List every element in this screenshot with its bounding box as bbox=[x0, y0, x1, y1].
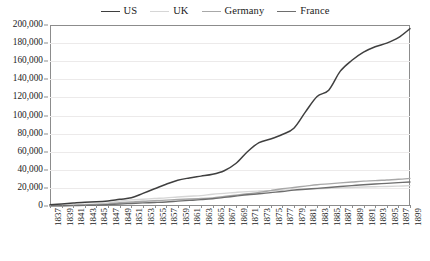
x-axis-tick bbox=[96, 205, 97, 208]
x-axis-tick bbox=[305, 205, 306, 208]
y-axis-tick bbox=[44, 206, 48, 207]
x-axis-label: 1837 bbox=[54, 208, 63, 226]
legend-swatch-france bbox=[277, 11, 296, 12]
x-axis-label: 1861 bbox=[193, 208, 202, 226]
y-axis-tick bbox=[44, 79, 48, 80]
series-line-france bbox=[50, 182, 410, 206]
x-axis-tick bbox=[73, 205, 74, 208]
x-axis-tick bbox=[340, 205, 341, 208]
x-axis-label: 1853 bbox=[147, 208, 156, 226]
x-axis-label: 1849 bbox=[124, 208, 133, 226]
y-axis: 020,00040,00060,00080,000100,000120,0001… bbox=[0, 25, 48, 206]
x-axis-tick bbox=[329, 205, 330, 208]
y-axis-tick bbox=[44, 151, 48, 152]
x-axis-label: 1887 bbox=[344, 208, 353, 226]
x-axis-label: 1859 bbox=[182, 208, 191, 226]
x-axis-label: 1839 bbox=[66, 208, 75, 226]
x-axis-label: 1851 bbox=[135, 208, 144, 226]
legend-item-uk[interactable]: UK bbox=[150, 6, 188, 17]
chart-legend: USUKGermanyFrance bbox=[0, 6, 430, 17]
legend-swatch-germany bbox=[202, 11, 221, 12]
x-axis-label: 1877 bbox=[286, 208, 295, 226]
x-axis-tick bbox=[178, 205, 179, 208]
x-axis-label: 1881 bbox=[309, 208, 318, 226]
x-axis-tick bbox=[155, 205, 156, 208]
legend-item-france[interactable]: France bbox=[277, 6, 329, 17]
y-axis-label: 20,000 bbox=[17, 183, 43, 192]
x-axis-tick bbox=[62, 205, 63, 208]
x-axis-tick bbox=[166, 205, 167, 208]
plot-area bbox=[50, 25, 410, 206]
y-axis-tick bbox=[44, 97, 48, 98]
x-axis-tick bbox=[271, 205, 272, 208]
x-axis-tick bbox=[189, 205, 190, 208]
series-lines bbox=[50, 25, 410, 206]
x-axis-label: 1869 bbox=[240, 208, 249, 226]
x-axis-label: 1875 bbox=[275, 208, 284, 226]
y-axis-tick bbox=[44, 133, 48, 134]
x-axis-tick bbox=[236, 205, 237, 208]
x-axis-label: 1891 bbox=[368, 208, 377, 226]
legend-label: Germany bbox=[225, 6, 265, 17]
x-axis-tick bbox=[352, 205, 353, 208]
x-axis-label: 1885 bbox=[333, 208, 342, 226]
x-axis-label: 1883 bbox=[321, 208, 330, 226]
y-axis-tick bbox=[44, 25, 48, 26]
legend-swatch-us bbox=[101, 11, 120, 12]
legend-label: France bbox=[300, 6, 329, 17]
y-axis-label: 80,000 bbox=[17, 129, 43, 138]
y-axis-label: 160,000 bbox=[13, 57, 43, 66]
x-axis-tick bbox=[259, 205, 260, 208]
x-axis-tick bbox=[398, 205, 399, 208]
x-axis-tick bbox=[201, 205, 202, 208]
x-axis-label: 1855 bbox=[159, 208, 168, 226]
x-axis-tick bbox=[364, 205, 365, 208]
legend-label: UK bbox=[173, 6, 188, 17]
y-axis-tick bbox=[44, 169, 48, 170]
x-axis-tick bbox=[410, 205, 411, 208]
x-axis-label: 1867 bbox=[228, 208, 237, 226]
x-axis-tick bbox=[387, 205, 388, 208]
y-axis-tick bbox=[44, 43, 48, 44]
y-axis-label: 0 bbox=[38, 201, 43, 210]
x-axis-tick bbox=[50, 205, 51, 208]
y-axis-label: 140,000 bbox=[13, 75, 43, 84]
x-axis-tick bbox=[224, 205, 225, 208]
y-axis-label: 180,000 bbox=[13, 38, 43, 47]
x-axis-tick bbox=[131, 205, 132, 208]
x-axis-label: 1899 bbox=[414, 208, 423, 226]
x-axis-tick bbox=[247, 205, 248, 208]
x-axis-label: 1893 bbox=[379, 208, 388, 226]
x-axis-label: 1843 bbox=[89, 208, 98, 226]
x-axis-label: 1845 bbox=[100, 208, 109, 226]
x-axis-tick bbox=[294, 205, 295, 208]
x-axis-label: 1847 bbox=[112, 208, 121, 226]
y-axis-tick bbox=[44, 187, 48, 188]
series-line-us bbox=[50, 29, 410, 205]
y-axis-label: 200,000 bbox=[13, 20, 43, 29]
line-chart: USUKGermanyFrance 020,00040,00060,00080,… bbox=[0, 0, 430, 261]
legend-label: US bbox=[124, 6, 138, 17]
x-axis-tick bbox=[108, 205, 109, 208]
x-axis-label: 1873 bbox=[263, 208, 272, 226]
x-axis-label: 1865 bbox=[217, 208, 226, 226]
y-axis-label: 120,000 bbox=[13, 93, 43, 102]
x-axis-tick bbox=[213, 205, 214, 208]
y-axis-tick bbox=[44, 115, 48, 116]
x-axis-tick bbox=[375, 205, 376, 208]
x-axis-label: 1889 bbox=[356, 208, 365, 226]
x-axis-tick bbox=[317, 205, 318, 208]
legend-item-germany[interactable]: Germany bbox=[202, 6, 265, 17]
x-axis-tick bbox=[85, 205, 86, 208]
x-axis-label: 1863 bbox=[205, 208, 214, 226]
legend-item-us[interactable]: US bbox=[101, 6, 138, 17]
x-axis: 1837183918411843184518471849185118531855… bbox=[50, 208, 410, 261]
x-axis-label: 1841 bbox=[77, 208, 86, 226]
y-axis-label: 40,000 bbox=[17, 165, 43, 174]
x-axis-label: 1897 bbox=[402, 208, 411, 226]
y-axis-label: 60,000 bbox=[17, 147, 43, 156]
x-axis-label: 1857 bbox=[170, 208, 179, 226]
x-axis-label: 1879 bbox=[298, 208, 307, 226]
x-axis-tick bbox=[282, 205, 283, 208]
legend-swatch-uk bbox=[150, 11, 169, 12]
